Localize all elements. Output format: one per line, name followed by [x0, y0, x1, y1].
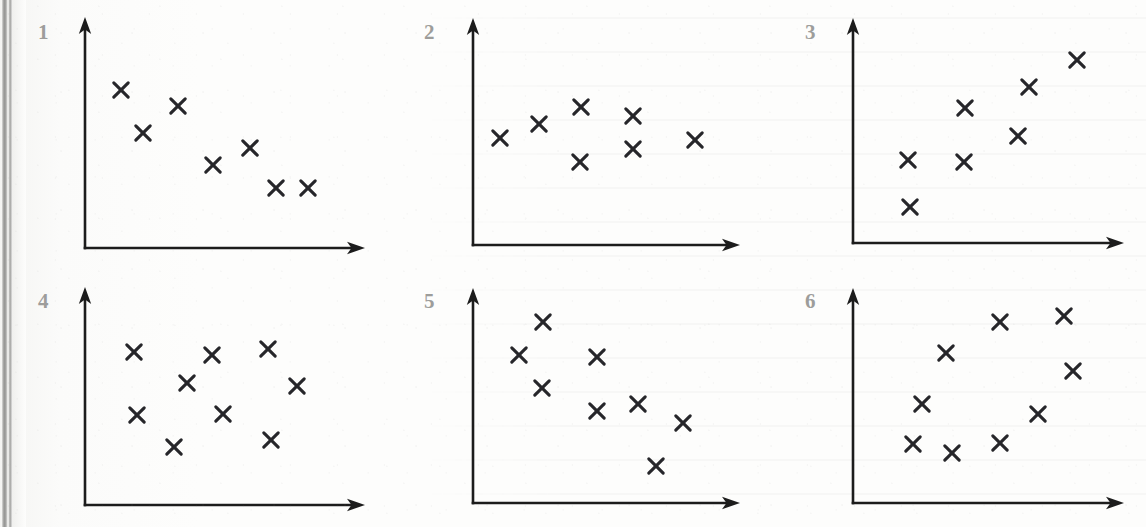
data-point-group	[114, 83, 315, 195]
data-point-marker	[631, 397, 645, 411]
data-point-marker	[626, 142, 640, 156]
data-point-marker	[532, 117, 546, 131]
data-point-marker	[1057, 309, 1071, 323]
data-point-marker	[901, 153, 915, 167]
data-point-marker	[264, 433, 278, 447]
data-point-marker	[206, 158, 220, 172]
data-point-marker	[649, 459, 663, 473]
data-point-marker	[290, 379, 304, 393]
data-point-marker	[590, 404, 604, 418]
panel-label-5: 5	[424, 291, 435, 312]
data-point-marker	[626, 109, 640, 123]
data-point-group	[901, 53, 1084, 214]
scatter-panel-5	[467, 288, 740, 509]
data-point-marker	[1031, 407, 1045, 421]
scatter-plots-canvas	[0, 0, 1146, 527]
data-point-marker	[493, 131, 507, 145]
data-point-marker	[939, 346, 953, 360]
data-point-marker	[243, 141, 257, 155]
data-point-marker	[903, 200, 917, 214]
data-point-marker	[993, 436, 1007, 450]
data-point-group	[512, 315, 690, 473]
panel-label-2: 2	[424, 22, 435, 43]
data-point-marker	[512, 348, 526, 362]
scatter-panel-1	[79, 17, 365, 254]
scatter-panel-3	[847, 18, 1124, 249]
data-point-marker	[535, 381, 549, 395]
data-point-marker	[269, 181, 283, 195]
scatter-panel-2	[467, 18, 740, 251]
data-point-marker	[136, 126, 150, 140]
data-point-marker	[1066, 364, 1080, 378]
data-point-marker	[945, 446, 959, 460]
scanned-page: 123456	[0, 0, 1146, 527]
data-point-marker	[130, 408, 144, 422]
data-point-marker	[261, 342, 275, 356]
data-point-marker	[205, 348, 219, 362]
panel-label-1: 1	[38, 22, 49, 43]
data-point-marker	[957, 155, 971, 169]
data-point-marker	[688, 133, 702, 147]
panel-label-4: 4	[38, 291, 49, 312]
data-point-group	[906, 309, 1080, 460]
data-point-marker	[1011, 129, 1025, 143]
data-point-marker	[167, 440, 181, 454]
data-point-marker	[1022, 80, 1036, 94]
data-point-marker	[573, 155, 587, 169]
data-point-marker	[574, 100, 588, 114]
data-point-marker	[114, 83, 128, 97]
panel-label-3: 3	[805, 22, 816, 43]
data-point-marker	[1070, 53, 1084, 67]
data-point-group	[493, 100, 702, 169]
data-point-marker	[127, 345, 141, 359]
data-point-marker	[180, 376, 194, 390]
data-point-marker	[171, 99, 185, 113]
scatter-panel-4	[79, 287, 365, 511]
data-point-marker	[906, 437, 920, 451]
data-point-marker	[915, 397, 929, 411]
data-point-marker	[676, 416, 690, 430]
data-point-marker	[993, 315, 1007, 329]
data-point-marker	[536, 315, 550, 329]
data-point-marker	[958, 101, 972, 115]
data-point-group	[127, 342, 304, 454]
data-point-marker	[216, 407, 230, 421]
panel-label-6: 6	[805, 291, 816, 312]
scatter-panel-6	[847, 288, 1124, 509]
data-point-marker	[301, 181, 315, 195]
data-point-marker	[590, 350, 604, 364]
